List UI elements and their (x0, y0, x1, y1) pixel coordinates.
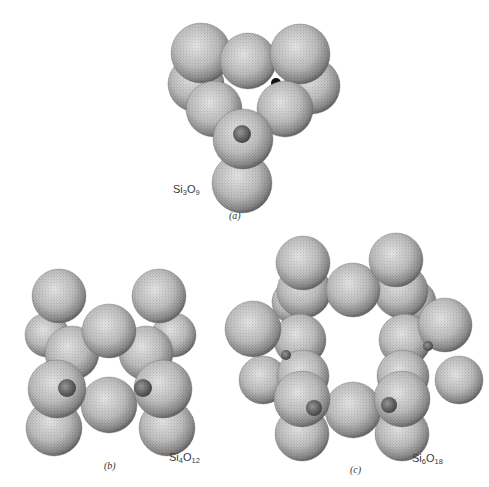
silicon-stipple (233, 125, 251, 143)
oxygen-sphere (325, 382, 381, 438)
silicon-atom (306, 400, 322, 416)
subscript-count: 12 (192, 456, 200, 465)
element-symbol: O (187, 183, 196, 195)
formula-label-b: Si4O12 (169, 451, 200, 465)
oxygen-sphere (82, 304, 136, 358)
subscript-count: 9 (196, 188, 200, 197)
silicon-atom (423, 341, 433, 351)
sphere-stipple (325, 382, 381, 438)
silicon-atom (233, 125, 251, 143)
panel-c-molecule (225, 233, 483, 461)
silicon-atom (381, 397, 397, 413)
element-symbol: Si (412, 452, 422, 464)
oxygen-sphere (369, 233, 423, 287)
element-symbol: O (183, 451, 192, 463)
silicon-atom (281, 350, 291, 360)
panel-label-b: (b) (104, 460, 116, 471)
oxygen-sphere (220, 33, 276, 89)
sphere-stipple (274, 371, 330, 427)
oxygen-sphere (435, 356, 483, 404)
panel-label-c: (c) (350, 464, 361, 475)
silicon-stipple (281, 350, 291, 360)
oxygen-sphere (81, 377, 137, 433)
sphere-stipple (225, 301, 281, 357)
silicon-atom (58, 379, 76, 397)
sphere-stipple (369, 233, 423, 287)
sphere-stipple (132, 269, 186, 323)
sphere-stipple (82, 304, 136, 358)
panel-b-molecule (25, 269, 196, 456)
silicon-stipple (58, 379, 76, 397)
oxygen-sphere (32, 269, 86, 323)
oxygen-sphere (132, 269, 186, 323)
oxygen-sphere (225, 301, 281, 357)
sphere-stipple (28, 360, 86, 418)
molecule-panels (25, 23, 483, 461)
oxygen-sphere (374, 371, 430, 427)
element-symbol: Si (173, 183, 183, 195)
subscript-count: 18 (435, 457, 443, 466)
sphere-stipple (81, 377, 137, 433)
panel-label-a: (a) (229, 210, 241, 221)
oxygen-sphere (28, 360, 86, 418)
sphere-stipple (435, 356, 483, 404)
oxygen-sphere (270, 24, 330, 84)
sphere-stipple (220, 33, 276, 89)
oxygen-sphere (276, 236, 330, 290)
formula-label-a: Si3O9 (173, 183, 200, 197)
silicon-stipple (134, 379, 152, 397)
silicon-stipple (423, 341, 433, 351)
oxygen-sphere (274, 371, 330, 427)
element-symbol: Si (169, 451, 179, 463)
sphere-stipple (374, 371, 430, 427)
element-symbol: O (426, 452, 435, 464)
formula-label-c: Si6O18 (412, 452, 443, 466)
silicon-atom (134, 379, 152, 397)
sphere-stipple (32, 269, 86, 323)
silicon-stipple (306, 400, 322, 416)
silicon-stipple (381, 397, 397, 413)
silicate-ring-figure (0, 0, 489, 487)
sphere-stipple (276, 236, 330, 290)
sphere-stipple (270, 24, 330, 84)
